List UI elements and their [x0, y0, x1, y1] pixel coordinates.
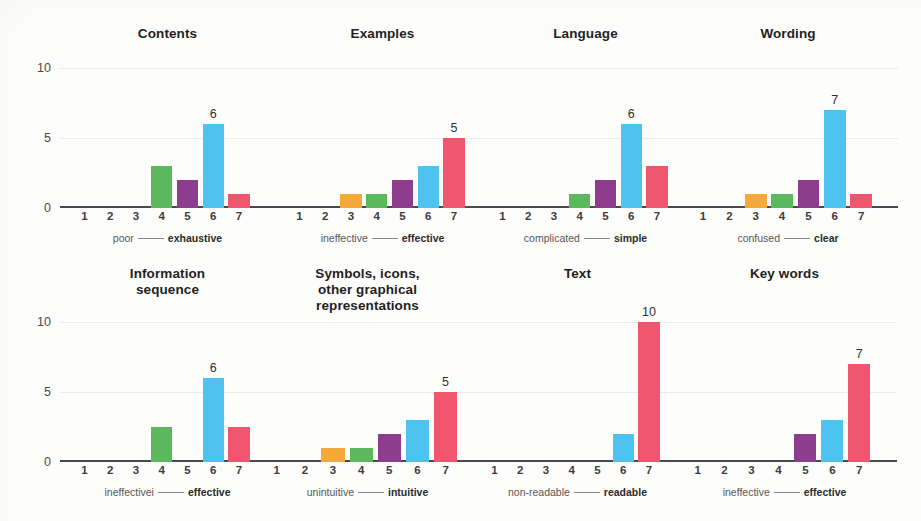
- chart-panel: Contents051061234567poorexhaustive: [60, 0, 275, 250]
- bar: [177, 180, 198, 208]
- bar: [406, 420, 429, 462]
- x-axis-tick-label: 1: [274, 464, 280, 476]
- x-axis-tick-label: 1: [499, 210, 505, 222]
- x-axis-tick-label: 3: [348, 210, 354, 222]
- plot-area: 7: [678, 68, 898, 208]
- anchor-low-label: poor: [113, 232, 134, 244]
- x-axis-tick-label: 7: [654, 210, 660, 222]
- chart-title: Information sequence: [60, 266, 275, 298]
- bar: [850, 194, 872, 208]
- x-axis-tick-label: 7: [236, 210, 242, 222]
- x-axis-tick-label: 5: [386, 464, 392, 476]
- x-axis-tick-label: 3: [330, 464, 336, 476]
- x-axis-tick-label: 6: [832, 210, 838, 222]
- bar-group: 6: [60, 68, 275, 208]
- bar-group: 6: [478, 68, 693, 208]
- chart-title: Examples: [275, 26, 490, 42]
- anchor-rule: [138, 238, 164, 239]
- chart-panel: Language61234567complicatedsimple: [478, 0, 693, 250]
- x-axis-tick-label: 5: [184, 464, 190, 476]
- x-axis-tick-label: 4: [159, 210, 165, 222]
- x-axis-tick-label: 3: [748, 464, 754, 476]
- x-axis-ticks: 1234567: [60, 210, 275, 226]
- x-axis-tick-label: 4: [159, 464, 165, 476]
- x-axis-tick-label: 2: [322, 210, 328, 222]
- x-axis-tick-label: 5: [802, 464, 808, 476]
- x-axis-tick-label: 3: [753, 210, 759, 222]
- x-axis-tick-label: 7: [856, 464, 862, 476]
- x-axis-tick-label: 7: [646, 464, 652, 476]
- anchor-high-label: intuitive: [388, 486, 428, 498]
- x-axis-tick-label: 7: [442, 464, 448, 476]
- bar: [569, 194, 590, 208]
- bar-value-label: 10: [642, 305, 656, 319]
- x-axis-tick-label: 1: [694, 464, 700, 476]
- chart-row-top: Contents051061234567poorexhaustiveExampl…: [0, 0, 921, 250]
- x-axis-tick-label: 1: [296, 210, 302, 222]
- bar: [646, 166, 667, 208]
- anchor-high-label: simple: [614, 232, 647, 244]
- x-axis-tick-label: 1: [81, 210, 87, 222]
- bar: [228, 194, 249, 208]
- x-axis-tick-label: 3: [133, 464, 139, 476]
- bar: [798, 180, 820, 208]
- chart-title: Language: [478, 26, 693, 42]
- figure-sheet: Contents051061234567poorexhaustiveExampl…: [0, 0, 921, 521]
- x-axis-tick-label: 6: [210, 464, 216, 476]
- x-axis-tick-label: 2: [525, 210, 531, 222]
- x-axis-tick-label: 1: [81, 464, 87, 476]
- anchor-rule: [574, 492, 600, 493]
- chart-panel: Examples51234567ineffectiveeffective: [275, 0, 490, 250]
- x-axis-tick-label: 6: [425, 210, 431, 222]
- x-axis-tick-label: 4: [779, 210, 785, 222]
- x-axis-ticks: 1234567: [470, 464, 685, 480]
- bar: [350, 448, 373, 462]
- y-axis-tick-label: 10: [37, 315, 51, 329]
- anchor-rule: [358, 492, 384, 493]
- plot-area: 05106: [60, 68, 275, 208]
- bar: 6: [203, 124, 224, 208]
- x-axis-ticks: 1234567: [275, 210, 490, 226]
- y-axis-tick-label: 10: [37, 61, 51, 75]
- bar: [613, 434, 634, 462]
- bar: [366, 194, 387, 208]
- bar-value-label: 7: [831, 93, 838, 107]
- chart-panel: Symbols, icons, other graphical represen…: [250, 252, 485, 521]
- x-axis-tick-label: 2: [726, 210, 732, 222]
- bar: [794, 434, 816, 462]
- chart-title: Symbols, icons, other graphical represen…: [250, 266, 485, 314]
- x-axis-ticks: 1234567: [672, 464, 897, 480]
- bar-group: 7: [678, 68, 898, 208]
- chart-panel: Wording71234567confusedclear: [678, 0, 898, 250]
- scale-anchor-caption: ineffectiveeffective: [275, 232, 490, 244]
- chart-panel: Key words71234567ineffectiveeffective: [672, 252, 897, 521]
- anchor-high-label: effective: [188, 486, 231, 498]
- bar: 10: [638, 322, 659, 462]
- plot-area: 7: [672, 322, 897, 462]
- bar-value-label: 5: [442, 375, 449, 389]
- anchor-high-label: effective: [804, 486, 847, 498]
- x-axis-ticks: 1234567: [60, 464, 275, 480]
- scale-anchor-caption: ineffectiveieffective: [60, 486, 275, 498]
- plot-area: 5: [275, 68, 490, 208]
- bar: 7: [824, 110, 846, 208]
- y-axis-tick-label: 0: [44, 455, 51, 469]
- anchor-low-label: ineffective: [321, 232, 368, 244]
- chart-panel: Text101234567non-readablereadable: [470, 252, 685, 521]
- scale-anchor-caption: complicatedsimple: [478, 232, 693, 244]
- bar: [418, 166, 439, 208]
- bar: [378, 434, 401, 462]
- bar: [151, 166, 172, 208]
- scale-anchor-caption: poorexhaustive: [60, 232, 275, 244]
- bar-group: 7: [672, 322, 897, 462]
- x-axis-tick-label: 4: [374, 210, 380, 222]
- scale-anchor-caption: ineffectiveeffective: [672, 486, 897, 498]
- scale-anchor-caption: unintuitiveintuitive: [250, 486, 485, 498]
- x-axis-tick-label: 5: [602, 210, 608, 222]
- x-axis-tick-label: 7: [236, 464, 242, 476]
- bar-group: 10: [470, 322, 685, 462]
- bar-value-label: 7: [856, 347, 863, 361]
- bar: [821, 420, 843, 462]
- x-axis-tick-label: 4: [569, 464, 575, 476]
- x-axis-tick-label: 6: [210, 210, 216, 222]
